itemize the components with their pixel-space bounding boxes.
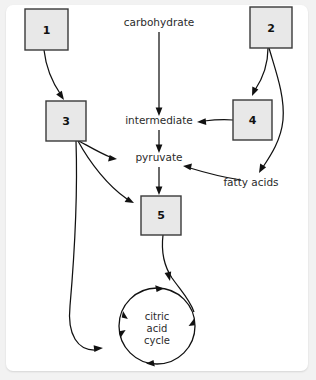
box-node-2[interactable]: 2	[250, 7, 292, 48]
page-root: 1 2 3 4 5 carbohydrate intermediate pyru…	[0, 0, 316, 380]
citric-acid-cycle-label: citric acid cycle	[144, 311, 170, 346]
box-1-label: 1	[43, 24, 51, 37]
label-pyruvate: pyruvate	[135, 151, 182, 163]
cycle-label-line-2: acid	[147, 323, 168, 334]
box-node-5[interactable]: 5	[141, 196, 181, 235]
arrow-carbohydrate-to-intermediate	[156, 32, 163, 116]
cycle-label-line-3: cycle	[144, 335, 170, 346]
arrow-box2-to-box4	[252, 48, 268, 96]
arrow-box4-to-intermediate	[197, 118, 233, 125]
box-5-label: 5	[157, 209, 165, 222]
metabolic-pathway-diagram: 1 2 3 4 5 carbohydrate intermediate pyru…	[0, 0, 316, 380]
arrow-box5-to-citric-acid-cycle	[162, 235, 194, 312]
box-node-3[interactable]: 3	[46, 101, 86, 141]
label-fatty-acids: fatty acids	[223, 176, 278, 188]
box-node-4[interactable]: 4	[233, 100, 272, 140]
arrow-box1-to-box3	[44, 50, 64, 100]
box-3-label: 3	[62, 115, 70, 128]
arrow-intermediate-to-pyruvate	[156, 130, 163, 153]
box-4-label: 4	[249, 114, 257, 127]
arrow-box3-to-citric-acid-cycle	[70, 141, 103, 352]
label-intermediate: intermediate	[125, 114, 193, 126]
label-carbohydrate: carbohydrate	[124, 16, 194, 28]
box-node-1[interactable]: 1	[25, 9, 68, 50]
box-2-label: 2	[267, 22, 275, 35]
arrow-box3-to-box5	[78, 141, 134, 203]
arrow-pyruvate-to-box5	[156, 167, 163, 195]
cycle-label-line-1: citric	[145, 311, 170, 322]
